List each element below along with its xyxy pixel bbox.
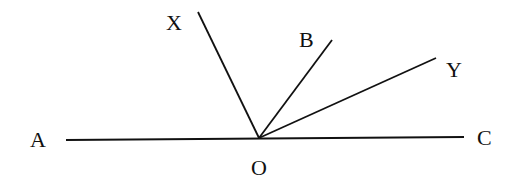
- label-c: C: [477, 125, 492, 150]
- ray-ox: [198, 12, 259, 138]
- label-y: Y: [446, 57, 462, 82]
- label-x: X: [166, 10, 182, 35]
- ray-ob: [259, 40, 332, 138]
- angle-diagram: X B Y A C O: [0, 0, 513, 190]
- line-ac: [66, 137, 464, 140]
- ray-oy: [259, 58, 436, 138]
- label-a: A: [30, 127, 46, 152]
- label-o: O: [251, 155, 267, 180]
- label-b: B: [299, 27, 314, 52]
